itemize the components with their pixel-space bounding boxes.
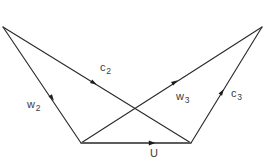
edge-label-w3-text: w <box>176 90 184 102</box>
diagram-svg <box>0 0 265 166</box>
edge-label-w2-text: w <box>27 98 35 110</box>
edge-label-u: U <box>150 148 158 159</box>
edge-label-c3: c3 <box>231 88 242 99</box>
arrow-marker-u <box>149 141 156 146</box>
edge-label-u-text: U <box>150 147 158 159</box>
edge-label-w2-subscript: 2 <box>36 103 41 113</box>
edge-label-w3: w3 <box>176 91 189 102</box>
edge-w3 <box>81 27 262 143</box>
edge-c2 <box>3 27 191 143</box>
edge-label-w2: w2 <box>27 99 40 110</box>
edge-label-c2-subscript: 2 <box>106 66 111 76</box>
edge-label-c3-subscript: 3 <box>237 92 242 102</box>
edge-label-w3-subscript: 3 <box>185 95 190 105</box>
edge-w2 <box>3 27 81 143</box>
edge-label-c2: c2 <box>100 62 111 73</box>
edge-label-c3-text: c <box>231 87 237 99</box>
edge-c3 <box>191 27 262 143</box>
diagram-canvas: w2 c2 w3 c3 U <box>0 0 265 166</box>
edge-label-c2-text: c <box>100 61 106 73</box>
